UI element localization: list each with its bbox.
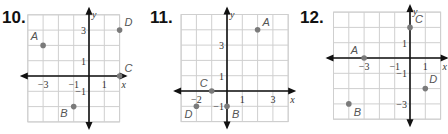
point-label-c: C: [415, 13, 423, 25]
point-d: [423, 86, 429, 92]
y-tick-label: 1: [402, 38, 407, 49]
arrow-left-icon: [326, 55, 334, 62]
arrow-down-icon: [407, 119, 414, 127]
y-tick-label: −3: [396, 99, 407, 110]
point-label-d: D: [429, 73, 437, 85]
point-b: [346, 101, 352, 107]
coordinate-graph-12: xy−3−111−1−3ABCD: [0, 0, 448, 134]
x-tick-label: 1: [423, 61, 428, 72]
point-c: [407, 25, 413, 31]
point-label-b: B: [354, 106, 361, 118]
point-label-a: A: [350, 44, 358, 56]
point-a: [361, 55, 367, 61]
y-tick-label: −1: [396, 68, 407, 79]
x-axis-label: x: [442, 61, 448, 72]
x-tick-label: −3: [359, 61, 370, 72]
